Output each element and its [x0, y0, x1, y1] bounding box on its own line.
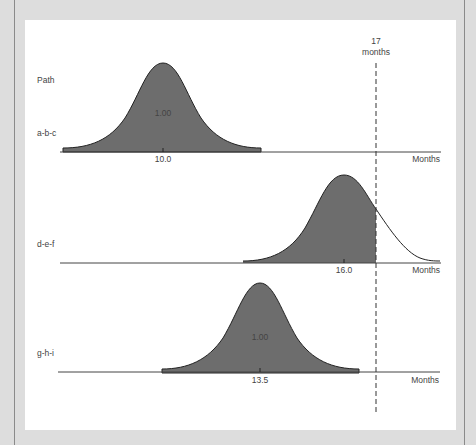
mean-label: 10.0: [155, 154, 172, 164]
row-label: d-e-f: [37, 239, 55, 249]
mean-label: 13.5: [252, 375, 269, 385]
path-distribution-chart: Path 17 months a-b-c 1.00 10.0 Months d-…: [0, 0, 476, 445]
probability-label: 1.00: [155, 108, 172, 118]
probability-label: 1.00: [252, 332, 269, 342]
mean-label: 16.0: [336, 265, 353, 275]
axis-unit-label: Months: [411, 375, 439, 385]
row-g-h-i: g-h-i 1.00 13.5 Months: [37, 283, 440, 385]
row-d-e-f: d-e-f 16.0 Months: [37, 175, 441, 275]
row-label: g-h-i: [37, 348, 54, 358]
row-a-b-c: a-b-c 1.00 10.0 Months: [37, 63, 441, 164]
row-label: a-b-c: [37, 128, 57, 138]
reference-label-value: 17: [371, 36, 381, 46]
axis-unit-label: Months: [412, 265, 440, 275]
distribution-curve-shaded: [162, 283, 359, 373]
reference-label-unit: months: [362, 47, 390, 57]
axis-unit-label: Months: [412, 154, 440, 164]
path-header: Path: [37, 75, 55, 85]
